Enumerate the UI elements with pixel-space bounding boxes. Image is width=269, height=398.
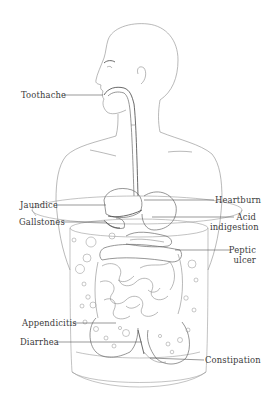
label-acid-indigestion: Acid indigestion <box>210 212 256 232</box>
head-outline <box>96 24 178 136</box>
label-jaundice: Jaundice <box>20 200 58 210</box>
label-constipation: Constipation <box>205 355 261 365</box>
label-acid-indigestion-line2: indigestion <box>210 222 256 232</box>
label-heartburn: Heartburn <box>215 195 261 205</box>
label-peptic-ulcer-line2: ulcer <box>222 255 256 265</box>
pancreas-colon <box>100 232 182 262</box>
esophagus <box>104 87 138 196</box>
digestive-ailments-diagram: Toothache Jaundice Gallstones Appendicit… <box>0 0 269 398</box>
label-peptic-ulcer: Peptic ulcer <box>222 245 256 265</box>
bubbles <box>72 233 198 354</box>
label-peptic-ulcer-line1: Peptic <box>222 245 256 255</box>
label-toothache: Toothache <box>21 90 66 100</box>
small-intestine <box>95 254 183 319</box>
large-intestine <box>90 318 189 364</box>
label-gallstones: Gallstones <box>19 217 65 227</box>
torso-outline <box>56 132 222 270</box>
label-diarrhea: Diarrhea <box>20 337 59 347</box>
label-appendicitis: Appendicitis <box>22 318 77 328</box>
label-acid-indigestion-line1: Acid <box>210 212 256 222</box>
